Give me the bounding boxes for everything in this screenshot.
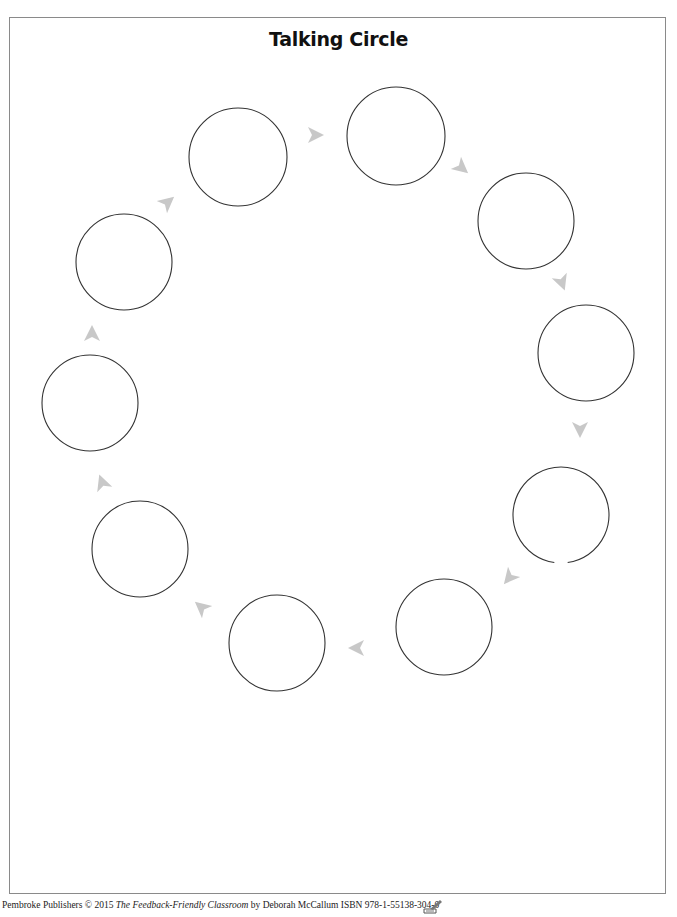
speaker-circle-6 bbox=[396, 579, 492, 675]
direction-arrow-icon bbox=[308, 127, 324, 143]
copyright-footer: Pembroke Publishers © 2015 The Feedback-… bbox=[2, 900, 439, 910]
direction-arrow-icon bbox=[348, 640, 364, 656]
footer-book-title: The Feedback-Friendly Classroom bbox=[116, 900, 249, 910]
direction-arrow-icon bbox=[451, 157, 474, 180]
circle-group bbox=[42, 87, 634, 691]
direction-arrow-icon bbox=[498, 567, 521, 590]
speaker-circle-1 bbox=[189, 108, 287, 206]
direction-arrow-icon bbox=[552, 273, 573, 294]
speaker-circle-7 bbox=[229, 595, 325, 691]
talking-circle-diagram bbox=[0, 0, 677, 917]
speaker-circle-10 bbox=[76, 214, 172, 310]
arrow-group bbox=[84, 127, 588, 656]
direction-arrow-icon bbox=[157, 191, 180, 214]
direction-arrow-icon bbox=[84, 325, 100, 341]
direction-arrow-icon bbox=[572, 422, 588, 438]
speaker-circle-4 bbox=[538, 305, 634, 401]
direction-arrow-icon bbox=[92, 472, 113, 493]
footer-prefix: Pembroke Publishers © 2015 bbox=[2, 900, 116, 910]
reproducible-page-icon bbox=[422, 897, 446, 915]
speaker-circle-8 bbox=[92, 501, 188, 597]
speaker-circle-5 bbox=[513, 467, 609, 563]
speaker-circle-2 bbox=[347, 87, 445, 185]
speaker-circle-3 bbox=[478, 173, 574, 269]
footer-suffix: by Deborah McCallum ISBN 978-1-55138-304… bbox=[248, 900, 439, 910]
direction-arrow-icon bbox=[190, 596, 213, 619]
speaker-circle-9 bbox=[42, 355, 138, 451]
